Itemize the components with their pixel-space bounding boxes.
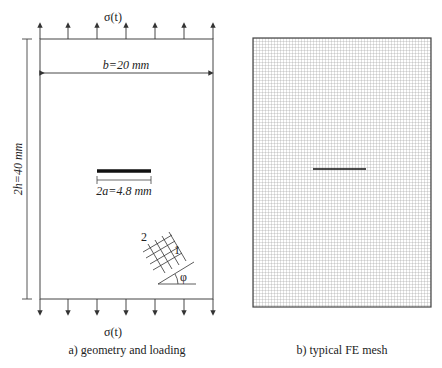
width-label: b=20 mm <box>103 58 150 72</box>
crack-dimension <box>97 176 151 184</box>
figure: σ(t) σ(t) b=20 mm 2h=40 mm <box>0 0 442 368</box>
panel-b-mesh: b) typical FE mesh <box>253 38 431 357</box>
panel-b-caption: b) typical FE mesh <box>297 343 388 357</box>
panel-a-caption: a) geometry and loading <box>69 343 186 357</box>
top-load-arrows <box>40 25 213 39</box>
fe-mesh <box>253 38 431 307</box>
bottom-load-arrows <box>40 299 213 313</box>
top-load-label: σ(t) <box>104 10 122 24</box>
axis-1-label: 1 <box>174 243 180 257</box>
angle-label: φ <box>180 270 187 284</box>
angle-indicator <box>158 262 196 284</box>
specimen-outline <box>40 39 213 299</box>
crack-label: 2a=4.8 mm <box>96 184 152 198</box>
panel-a-geometry: σ(t) σ(t) b=20 mm 2h=40 mm <box>11 10 213 357</box>
bottom-load-label: σ(t) <box>104 325 122 339</box>
axis-2-label: 2 <box>141 230 147 244</box>
height-label: 2h=40 mm <box>11 142 25 195</box>
